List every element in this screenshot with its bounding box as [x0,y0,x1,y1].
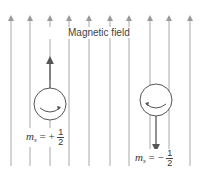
fraction: 12 [57,128,64,147]
ms-plus-half-label: ms = + 12 [26,128,64,147]
fraction: 12 [166,149,173,168]
electron-spin-up [34,27,92,120]
magnetic-field-label: Magnetic field [67,27,131,38]
spin-diagram: Magnetic field ms = + 12 ms = − 12 [0,0,203,181]
electron-spin-down [140,84,172,148]
ms-minus-half-label: ms = − 12 [135,149,173,168]
